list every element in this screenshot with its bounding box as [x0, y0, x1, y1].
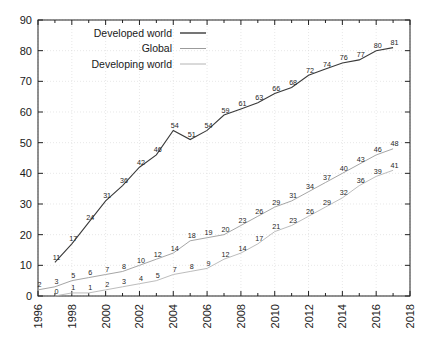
point-label: 3	[122, 277, 126, 286]
legend-label-0: Developed world	[94, 27, 172, 39]
point-label: 19	[205, 228, 213, 237]
x-tick-label: 1998	[66, 304, 78, 328]
x-tick-label: 2004	[167, 304, 179, 328]
point-label: 1	[88, 283, 92, 292]
chart-container: 0102030405060708090 19961998200020022004…	[0, 0, 434, 340]
point-label: 29	[323, 198, 331, 207]
point-label: 31	[103, 191, 111, 200]
point-label: 3	[54, 277, 58, 286]
y-tick-label: 10	[20, 259, 32, 271]
legend-label-1: Global	[142, 42, 172, 54]
point-label: 6	[88, 268, 92, 277]
point-label: 10	[137, 256, 145, 265]
data-point-labels: 1117243136424654515459616366687274767780…	[38, 38, 399, 295]
point-label: 36	[120, 176, 128, 185]
y-tick-label: 90	[20, 14, 32, 26]
point-label: 46	[374, 145, 382, 154]
point-label: 26	[255, 207, 263, 216]
x-tick-label: 2014	[336, 304, 348, 328]
point-label: 76	[340, 53, 348, 62]
point-label: 59	[222, 106, 230, 115]
point-label: 31	[289, 191, 297, 200]
point-label: 42	[137, 158, 145, 167]
point-label: 5	[156, 271, 160, 280]
y-tick-label: 80	[20, 45, 32, 57]
point-label: 14	[238, 244, 246, 253]
point-label: 12	[154, 250, 162, 259]
x-tick-label: 2008	[235, 304, 247, 328]
point-label: 20	[222, 225, 230, 234]
x-axis-ticks: 1996199820002002200420062008201020122014…	[32, 20, 416, 328]
point-label: 7	[105, 265, 109, 274]
point-label: 41	[391, 161, 399, 170]
point-label: 68	[289, 78, 297, 87]
point-label: 5	[71, 271, 75, 280]
point-label: 1	[71, 283, 75, 292]
point-label: 4	[139, 274, 143, 283]
point-label: 21	[272, 222, 280, 231]
point-label: 74	[323, 60, 331, 69]
y-tick-label: 70	[20, 75, 32, 87]
point-label: 61	[238, 99, 246, 108]
point-label: 17	[69, 234, 77, 243]
point-label: 23	[238, 216, 246, 225]
x-tick-label: 2016	[370, 304, 382, 328]
point-label: 81	[391, 38, 399, 47]
point-label: 8	[122, 262, 126, 271]
y-tick-label: 40	[20, 167, 32, 179]
y-axis-ticks: 0102030405060708090	[20, 14, 410, 302]
point-label: 34	[306, 182, 314, 191]
point-label: 26	[306, 207, 314, 216]
point-label: 77	[357, 50, 365, 59]
point-label: 43	[357, 155, 365, 164]
point-label: 2	[105, 280, 109, 289]
x-tick-label: 1996	[32, 304, 44, 328]
y-tick-label: 30	[20, 198, 32, 210]
point-label: 72	[306, 66, 314, 75]
point-label: 54	[205, 121, 213, 130]
point-label: 36	[357, 176, 365, 185]
legend-label-2: Developing world	[91, 58, 172, 70]
point-label: 46	[154, 145, 162, 154]
point-label: 12	[222, 250, 230, 259]
point-label: 17	[255, 234, 263, 243]
x-tick-label: 2006	[201, 304, 213, 328]
point-label: 40	[340, 164, 348, 173]
point-label: 0	[54, 287, 58, 296]
point-label: 23	[289, 216, 297, 225]
x-tick-label: 2010	[269, 304, 281, 328]
point-label: 2	[38, 280, 42, 289]
y-tick-label: 50	[20, 137, 32, 149]
point-label: 63	[255, 93, 263, 102]
point-label: 80	[374, 41, 382, 50]
point-label: 14	[171, 244, 179, 253]
point-label: 37	[323, 173, 331, 182]
point-label: 9	[207, 259, 211, 268]
point-label: 8	[190, 262, 194, 271]
point-label: 32	[340, 188, 348, 197]
y-tick-label: 20	[20, 229, 32, 241]
x-tick-label: 2000	[100, 304, 112, 328]
y-tick-label: 0	[26, 290, 32, 302]
y-tick-label: 60	[20, 106, 32, 118]
point-label: 7	[173, 265, 177, 274]
x-tick-label: 2002	[133, 304, 145, 328]
point-label: 39	[374, 167, 382, 176]
point-label: 11	[53, 253, 60, 262]
point-label: 66	[272, 84, 280, 93]
chart-legend: Developed worldGlobalDeveloping world	[91, 27, 206, 70]
line-chart: 0102030405060708090 19961998200020022004…	[0, 0, 434, 340]
point-label: 29	[272, 198, 280, 207]
x-tick-label: 2012	[303, 304, 315, 328]
point-label: 18	[188, 231, 196, 240]
point-label: 51	[188, 130, 196, 139]
point-label: 24	[86, 213, 94, 222]
point-label: 54	[171, 121, 179, 130]
x-tick-label: 2018	[404, 304, 416, 328]
point-label: 48	[391, 139, 399, 148]
